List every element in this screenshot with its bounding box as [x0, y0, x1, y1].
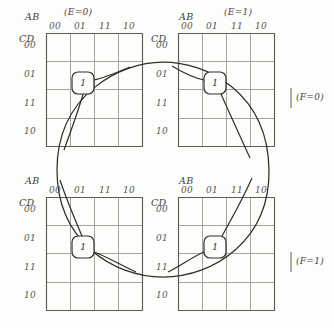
circle-connector: [94, 67, 130, 80]
map-e0-f0-col-10: 10: [123, 22, 135, 31]
map-e1-f0-col-01: 01: [206, 22, 218, 31]
map-e0-f1-col-10: 10: [123, 186, 135, 195]
map-e0-f1-row-00: 00: [24, 205, 36, 214]
row-title-f0: (F=0): [296, 93, 324, 102]
map-e1-f0-row-10: 10: [156, 127, 168, 136]
map-e1-f0-col-11: 11: [231, 22, 243, 31]
map-grid-e0-f0: [47, 34, 143, 147]
map-e1-f0-title: (E=1): [224, 8, 252, 17]
map-e0-f1-col-01: 01: [74, 186, 86, 195]
map-e0-f0-col-11: 11: [99, 22, 111, 31]
map-e1-f1-row-00: 00: [156, 205, 168, 214]
circle-connector: [168, 252, 204, 272]
map-e0-f1-row-11: 11: [24, 263, 36, 272]
map-e0-f0-row-11: 11: [24, 99, 36, 108]
map-grid-e1-f1: [179, 198, 275, 311]
map-e1-f1-row-11: 11: [156, 263, 168, 272]
map-e0-f0-row-01: 01: [24, 70, 36, 79]
map-grid-e1-f0: [179, 34, 275, 147]
map-e1-f0-col-00: 00: [181, 22, 193, 31]
minterm-value-e0-f1: 1: [80, 242, 86, 252]
map-e0-f0-col-01: 01: [74, 22, 86, 31]
map-e0-f1-row-01: 01: [24, 234, 36, 243]
map-e0-f1-col-var: AB: [25, 176, 39, 186]
circle-connector: [94, 252, 136, 272]
map-grid-e0-f1: [47, 198, 143, 311]
row-title-f1: (F=1): [296, 257, 324, 266]
map-e0-f0-col-00: 00: [49, 22, 61, 31]
circle-connector: [221, 94, 250, 158]
map-e1-f1-col-10: 10: [255, 186, 267, 195]
map-e0-f1-row-10: 10: [24, 291, 36, 300]
minterm-value-e1-f0: 1: [212, 78, 218, 88]
map-e1-f0-row-01: 01: [156, 70, 168, 79]
minterm-value-e1-f1: 1: [212, 242, 218, 252]
map-e1-f1-row-01: 01: [156, 234, 168, 243]
map-e1-f0-col-10: 10: [255, 22, 267, 31]
map-e1-f1-row-10: 10: [156, 291, 168, 300]
map-e0-f0-col-var: AB: [25, 12, 39, 22]
map-e0-f1-col-00: 00: [49, 186, 61, 195]
map-e1-f0-row-00: 00: [156, 41, 168, 50]
map-e1-f0-row-11: 11: [156, 99, 168, 108]
map-e0-f1-col-11: 11: [99, 186, 111, 195]
karnaugh-map-figure: AB CD (E=0) 00 01 11 10 00 01 11 10 1 AB…: [0, 0, 334, 328]
minterm-value-e0-f0: 1: [80, 78, 86, 88]
map-e0-f0-title: (E=0): [64, 8, 92, 17]
map-e1-f1-col-11: 11: [231, 186, 243, 195]
map-e0-f0-row-00: 00: [24, 41, 36, 50]
map-e1-f1-col-00: 00: [181, 186, 193, 195]
map-e0-f0-row-10: 10: [24, 127, 36, 136]
map-e1-f1-col-01: 01: [206, 186, 218, 195]
